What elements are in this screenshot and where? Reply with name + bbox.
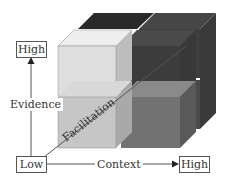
diagram-canvas: Facilitation High Evidence Low Context H… (0, 0, 236, 177)
back-right-side-face (200, 13, 216, 129)
context-arrowhead-icon (172, 161, 179, 168)
evidence-high-box: High (16, 41, 47, 58)
context-high-box: High (179, 156, 210, 173)
evidence-axis-label: Evidence (8, 98, 63, 111)
origin-low-box: Low (16, 156, 47, 173)
evidence-arrowhead-icon (28, 57, 35, 64)
cube-high-context-low-evidence (121, 81, 196, 148)
context-axis-label: Context (95, 158, 143, 171)
cube-diagram: Facilitation (0, 0, 236, 177)
